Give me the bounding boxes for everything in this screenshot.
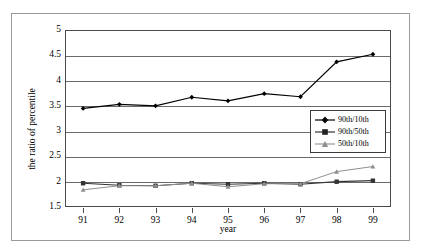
y-axis-tick-label: 4	[27, 76, 61, 86]
chart-figure: the ratio of percentile 54.543.532.521.5…	[0, 0, 421, 251]
y-axis-tick-label: 5	[27, 25, 61, 35]
legend-label: 90th/50th	[336, 128, 369, 136]
legend-marker-diamond-icon	[314, 114, 336, 126]
legend-item: 90th/10th	[314, 114, 382, 126]
y-axis-tick-label: 2	[27, 177, 61, 187]
x-axis-tick-mark	[192, 208, 193, 213]
y-axis-ticks: 54.543.532.521.5	[25, 30, 61, 207]
x-axis-title: year	[65, 224, 391, 234]
y-axis-tick-label: 3	[27, 126, 61, 136]
x-axis-tick-mark	[83, 208, 84, 213]
x-axis-tick-mark	[119, 208, 120, 213]
legend-label: 50th/10th	[336, 140, 369, 148]
x-axis-tick-mark	[264, 208, 265, 213]
data-point-square	[334, 180, 338, 184]
y-axis-tick-label: 1.5	[27, 202, 61, 212]
legend-marker-square-icon	[314, 126, 336, 138]
x-axis-tick-mark	[337, 208, 338, 213]
y-axis-tick-label: 3.5	[27, 101, 61, 111]
x-axis-tick-mark	[373, 208, 374, 213]
legend-label: 90th/10th	[336, 116, 369, 124]
data-point-diamond	[262, 91, 267, 96]
y-axis-tick-label: 2.5	[27, 151, 61, 161]
legend: 90th/10th 90th/50th 50th/10th	[310, 110, 386, 153]
data-point-diamond	[153, 103, 158, 108]
legend-item: 90th/50th	[314, 126, 382, 138]
data-point-diamond	[370, 52, 375, 57]
x-axis-tick-mark	[156, 208, 157, 213]
data-point-square	[81, 181, 85, 185]
x-axis-tick-mark	[228, 208, 229, 213]
legend-item: 50th/10th	[314, 138, 382, 150]
x-axis-tick-mark	[300, 208, 301, 213]
data-point-diamond	[226, 98, 231, 103]
data-point-diamond	[117, 102, 122, 107]
legend-marker-triangle-icon	[314, 138, 336, 150]
data-point-diamond	[189, 95, 194, 100]
y-axis-tick-label: 4.5	[27, 50, 61, 60]
data-point-diamond	[81, 106, 86, 111]
data-point-square	[371, 179, 375, 183]
